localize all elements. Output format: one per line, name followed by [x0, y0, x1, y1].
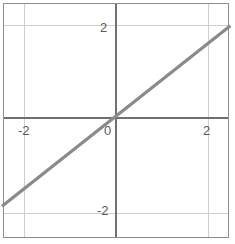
tick-label-x-neg2: -2 — [18, 124, 30, 137]
x-axis — [4, 117, 228, 119]
y-axis — [115, 4, 117, 237]
gridline-x-neg2 — [24, 4, 25, 237]
tick-label-origin: 0 — [104, 124, 111, 137]
gridline-x-pos2 — [208, 4, 209, 237]
tick-label-y-pos2: 2 — [100, 21, 107, 34]
tick-label-x-pos2: 2 — [203, 124, 210, 137]
tick-label-y-neg2: -2 — [97, 204, 109, 217]
line-chart: 2 -2 -2 2 0 — [0, 0, 235, 244]
plot-area: 2 -2 -2 2 0 — [3, 3, 229, 238]
